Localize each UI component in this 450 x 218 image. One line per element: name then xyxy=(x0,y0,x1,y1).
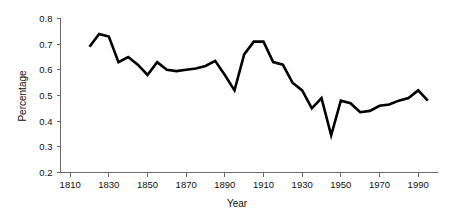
y-axis-tick-labels: 0.20.30.40.50.60.70.8 xyxy=(39,13,52,178)
x-tick-label: 1890 xyxy=(214,179,235,190)
x-tick-label: 1930 xyxy=(292,179,313,190)
x-tick-label: 1810 xyxy=(60,179,81,190)
y-tick-label: 0.3 xyxy=(39,141,52,152)
x-axis-ticks xyxy=(70,173,418,177)
y-axis-title: Percentage xyxy=(17,70,28,122)
x-tick-label: 1870 xyxy=(176,179,197,190)
x-tick-label: 1850 xyxy=(137,179,158,190)
data-series-line xyxy=(90,34,428,135)
y-axis: 0.20.30.40.50.60.70.8 xyxy=(39,13,60,178)
x-tick-label: 1830 xyxy=(98,179,119,190)
x-tick-label: 1970 xyxy=(369,179,390,190)
x-tick-label: 1990 xyxy=(408,179,429,190)
x-tick-label: 1910 xyxy=(253,179,274,190)
chart-figure: 0.20.30.40.50.60.70.8 181018301850187018… xyxy=(0,0,450,218)
line-chart-plot: 0.20.30.40.50.60.70.8 181018301850187018… xyxy=(0,0,450,218)
y-axis-ticks xyxy=(57,19,61,173)
x-axis-tick-labels: 1810183018501870189019101930195019701990 xyxy=(60,179,429,190)
x-axis: 1810183018501870189019101930195019701990 xyxy=(60,173,438,190)
y-tick-label: 0.2 xyxy=(39,167,52,178)
x-tick-label: 1950 xyxy=(330,179,351,190)
y-tick-label: 0.5 xyxy=(39,90,52,101)
y-tick-label: 0.7 xyxy=(39,39,52,50)
y-tick-label: 0.6 xyxy=(39,64,52,75)
x-axis-title: Year xyxy=(227,198,248,209)
y-tick-label: 0.8 xyxy=(39,13,52,24)
y-tick-label: 0.4 xyxy=(39,116,52,127)
